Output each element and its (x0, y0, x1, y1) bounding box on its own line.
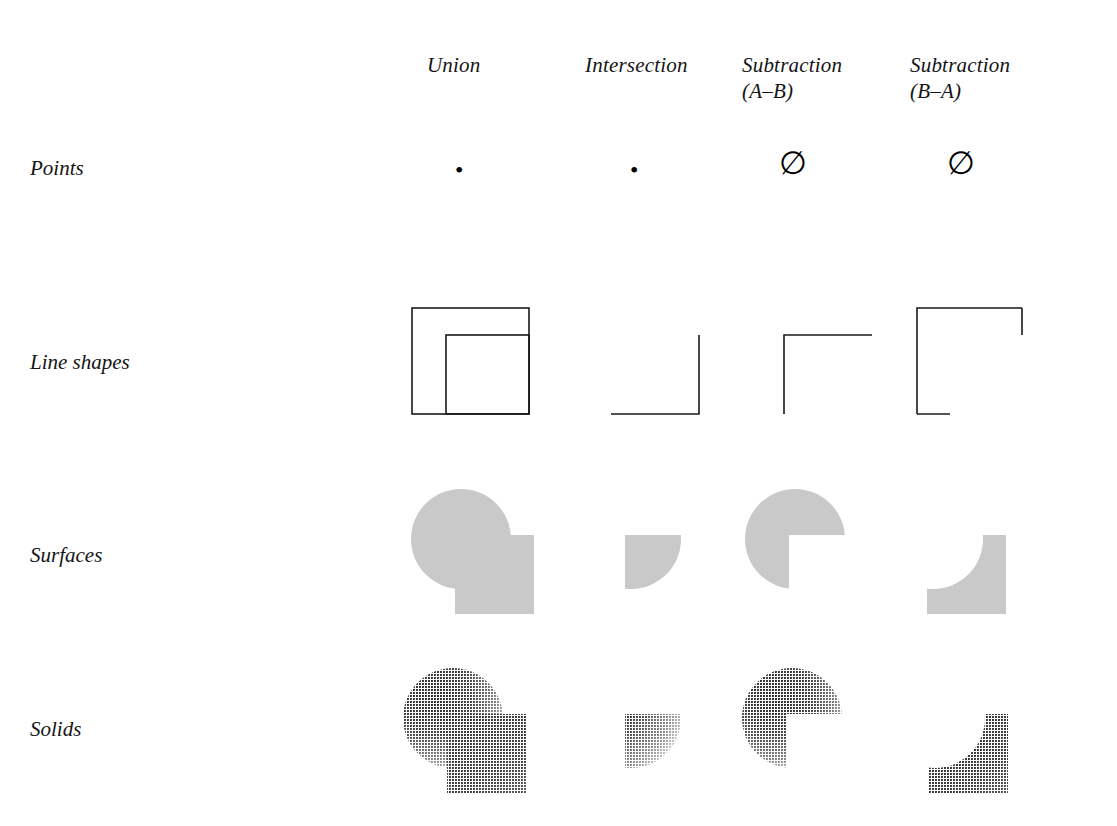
cell-solids-subtraction-b-a (905, 665, 1065, 815)
column-header-subtraction-b-a: Subtraction (B–A) (910, 52, 1010, 104)
cell-line-shapes-union (400, 295, 550, 430)
cell-solids-intersection (585, 665, 745, 815)
row-label-solids: Solids (30, 716, 81, 742)
column-header-union: Union (427, 52, 481, 78)
cell-surfaces-subtraction-a-b (742, 485, 892, 625)
column-header-subtraction-a-b: Subtraction (A–B) (742, 52, 842, 104)
cell-solids-subtraction-a-b (742, 665, 902, 815)
cell-line-shapes-intersection (585, 295, 735, 430)
points-union-point-symbol: • (455, 157, 463, 183)
cell-surfaces-subtraction-b-a (905, 485, 1055, 625)
cell-surfaces-union (400, 485, 550, 625)
points-intersection-point-symbol: • (630, 157, 638, 183)
row-label-line-shapes: Line shapes (30, 349, 130, 375)
cell-line-shapes-subtraction-a-b (742, 295, 892, 430)
cell-surfaces-intersection (585, 485, 735, 625)
row-label-surfaces: Surfaces (30, 542, 102, 568)
cell-line-shapes-subtraction-b-a (905, 295, 1055, 430)
points-subtraction-a-b-emptyset-symbol: ∅ (779, 150, 807, 176)
boolean-operations-figure: Union Intersection Subtraction (A–B) Sub… (0, 0, 1117, 826)
column-header-intersection: Intersection (585, 52, 688, 78)
cell-solids-union (395, 665, 555, 815)
row-label-points: Points (30, 155, 84, 181)
points-subtraction-b-a-emptyset-symbol: ∅ (947, 150, 975, 176)
